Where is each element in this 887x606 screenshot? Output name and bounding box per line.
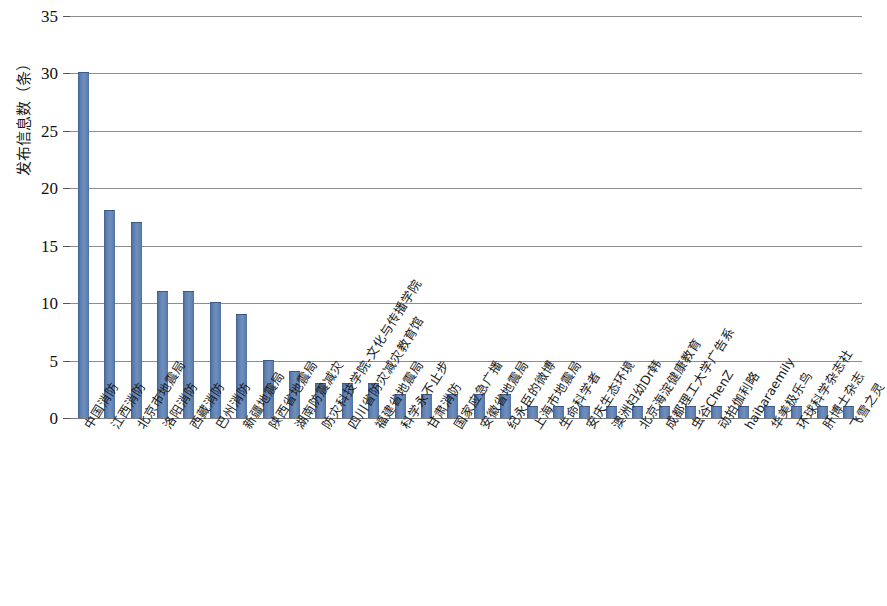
x-axis-tick-labels: 中国消防江西消防北京市地震局洛阳消防西藏消防巴州消防新疆地震局陕西省地震局湖南防…	[70, 419, 862, 606]
bars-layer	[70, 16, 862, 419]
bar	[78, 72, 89, 418]
plot-area: 05101520253035	[70, 16, 862, 419]
y-tick-mark	[63, 361, 70, 362]
y-tick-label: 5	[50, 352, 59, 369]
y-tick-label: 0	[50, 410, 59, 427]
y-tick-mark	[63, 188, 70, 189]
y-tick-mark	[63, 131, 70, 132]
y-tick-label: 25	[41, 122, 58, 139]
y-tick-label: 20	[41, 180, 58, 197]
y-axis-title: 发布信息数（条）	[12, 6, 33, 226]
y-tick-mark	[63, 16, 70, 17]
y-tick-mark	[63, 246, 70, 247]
y-tick-mark	[63, 418, 70, 419]
y-tick-mark	[63, 73, 70, 74]
y-tick-label: 10	[41, 295, 58, 312]
y-tick-mark	[63, 303, 70, 304]
y-tick-label: 15	[41, 237, 58, 254]
y-tick-label: 30	[41, 65, 58, 82]
y-tick-label: 35	[41, 8, 58, 25]
